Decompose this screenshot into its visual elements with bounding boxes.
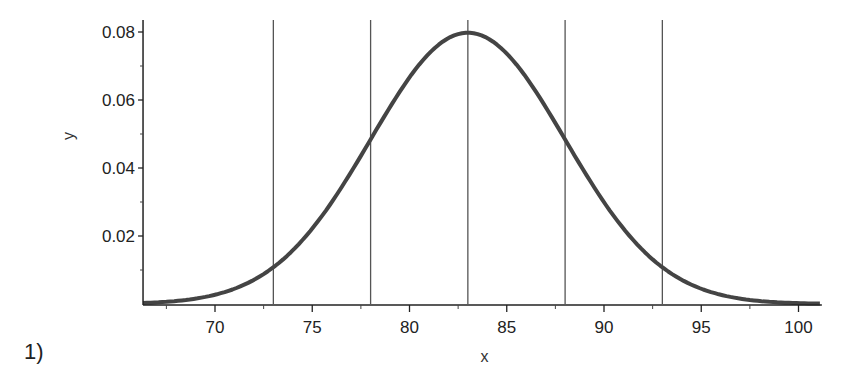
problem-number: 1) bbox=[24, 339, 44, 365]
x-tick-label: 85 bbox=[497, 318, 516, 337]
x-tick-label: 70 bbox=[206, 318, 225, 337]
y-tick-label: 0.08 bbox=[102, 23, 135, 42]
y-tick-label: 0.06 bbox=[102, 91, 135, 110]
normal-curve-chart: 7075808590951000.020.040.060.08xy bbox=[0, 0, 844, 392]
x-tick-label: 80 bbox=[400, 318, 419, 337]
x-tick-label: 95 bbox=[692, 318, 711, 337]
y-tick-label: 0.04 bbox=[102, 159, 135, 178]
x-axis-label: x bbox=[480, 348, 488, 365]
x-tick-label: 75 bbox=[303, 318, 322, 337]
x-tick-label: 90 bbox=[595, 318, 614, 337]
y-tick-label: 0.02 bbox=[102, 227, 135, 246]
x-tick-label: 100 bbox=[784, 318, 812, 337]
density-curve bbox=[143, 33, 820, 304]
plot-area: 7075808590951000.020.040.060.08xy bbox=[60, 20, 822, 365]
y-axis-label: y bbox=[60, 132, 77, 140]
